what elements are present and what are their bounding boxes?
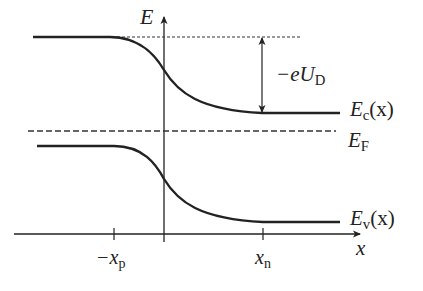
x-axis-label-text: x <box>356 236 365 260</box>
tick-label-xn-main: x <box>255 246 264 268</box>
conduction-band-label: Ec(x) <box>350 97 394 124</box>
fermi-level-label-sub: F <box>361 138 369 154</box>
energy-axis-label: E <box>140 4 153 30</box>
valence-band-curve <box>37 146 340 222</box>
valence-band-label-suffix: (x) <box>370 206 395 230</box>
valence-band-label: Ev(x) <box>350 206 395 233</box>
barrier-label: −eUD <box>276 62 325 89</box>
tick-label-xn-sub: n <box>264 256 271 271</box>
valence-band-label-main: E <box>350 206 363 230</box>
x-axis-label: x <box>356 236 365 261</box>
tick-label-xn: xn <box>255 246 271 272</box>
band-diagram: E −eUD Ec(x) EF Ev(x) x −xp xn <box>0 0 423 291</box>
tick-label-minus-xp: −xp <box>96 246 125 272</box>
tick-label-minus-xp-sub: p <box>118 256 125 271</box>
conduction-band-label-suffix: (x) <box>369 97 394 121</box>
energy-axis-label-text: E <box>140 4 153 29</box>
fermi-level-label: EF <box>348 128 369 155</box>
barrier-label-sub: D <box>315 72 326 88</box>
conduction-band-label-main: E <box>350 97 363 121</box>
fermi-level-label-main: E <box>348 128 361 152</box>
barrier-label-main: −eU <box>276 62 315 86</box>
tick-label-minus-xp-main: −x <box>96 246 118 268</box>
